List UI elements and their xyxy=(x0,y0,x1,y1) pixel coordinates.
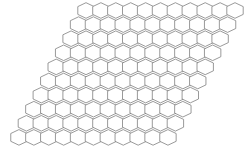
lattice-canvas xyxy=(0,0,249,155)
hexagonal-lattice-svg xyxy=(0,0,249,155)
